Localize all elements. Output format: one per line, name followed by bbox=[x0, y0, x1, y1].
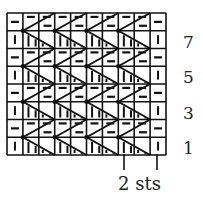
repeat-width-label: 2 sts bbox=[118, 175, 161, 193]
repeat-bracket bbox=[0, 0, 203, 205]
